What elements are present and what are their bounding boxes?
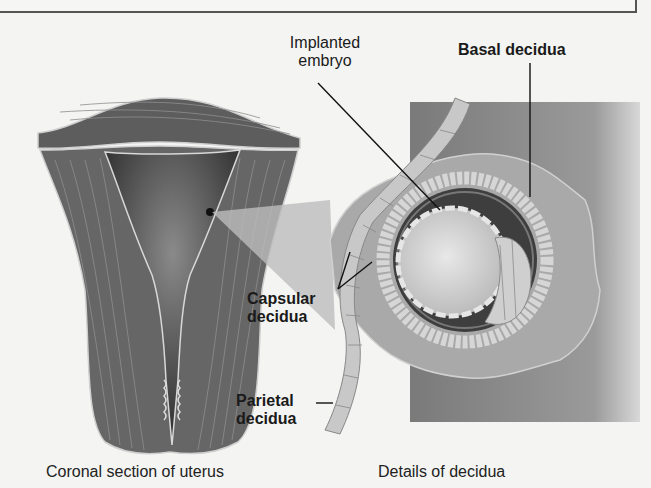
- decidua-detail: [325, 98, 640, 434]
- caption-coronal-section: Coronal section of uterus: [46, 463, 224, 481]
- label-basal-decidua: Basal decidua: [458, 41, 566, 59]
- label-line: decidua: [247, 308, 315, 326]
- label-implanted-embryo: Implanted embryo: [270, 34, 380, 70]
- decidua-diagram: [0, 0, 651, 488]
- label-line: embryo: [270, 52, 380, 70]
- label-capsular-decidua: Capsular decidua: [247, 290, 315, 326]
- caption-details-decidua: Details of decidua: [378, 463, 505, 481]
- label-line: Implanted: [270, 34, 380, 52]
- label-line: Parietal: [236, 392, 296, 410]
- label-parietal-decidua: Parietal decidua: [236, 392, 296, 428]
- label-line: decidua: [236, 410, 296, 428]
- label-line: Capsular: [247, 290, 315, 308]
